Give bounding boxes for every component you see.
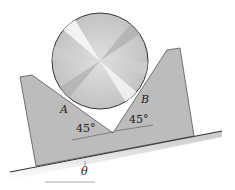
label-angle-right: 45° [129,113,149,126]
label-b: B [140,93,149,106]
label-theta: θ [81,165,88,178]
vblock-cylinder-diagram: A B 45° 45° θ [0,0,235,190]
label-a: A [59,103,68,116]
label-angle-left: 45° [76,122,96,135]
